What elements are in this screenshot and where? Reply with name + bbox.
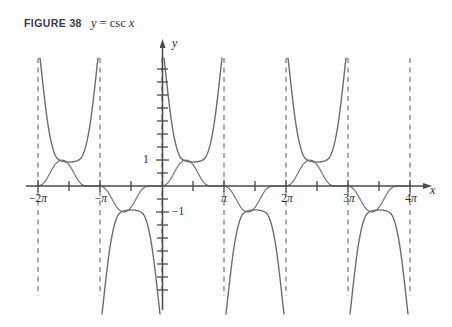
x-tick-label-3pi: 3π — [343, 192, 355, 204]
csc-branch-neg2pi-negpi — [40, 58, 98, 162]
x-axis-label: x — [430, 183, 435, 198]
x-tick-label-2pi: 2π — [281, 192, 293, 204]
csc-branch-3pi-4pi — [350, 210, 408, 314]
x-tick-label-neg-pi: −π — [95, 192, 107, 204]
figure-container: FIGURE 38y = csc x — [0, 0, 452, 327]
y-tick-label-1: 1 — [143, 153, 149, 165]
csc-branch-negpi-zero — [102, 210, 160, 314]
y-axis-label: y — [172, 36, 177, 51]
y-tick-label-neg-1: −1 — [172, 205, 184, 217]
csc-branch-zero-pi — [164, 58, 222, 162]
x-tick-label-4pi: 4π — [405, 192, 417, 204]
csc-branch-pi-2pi — [226, 210, 284, 314]
cosecant-plot — [0, 0, 452, 327]
x-tick-label-pi: π — [221, 192, 227, 204]
csc-branch-2pi-3pi — [288, 58, 346, 162]
x-tick-label-neg-2pi: −2π — [29, 192, 47, 204]
